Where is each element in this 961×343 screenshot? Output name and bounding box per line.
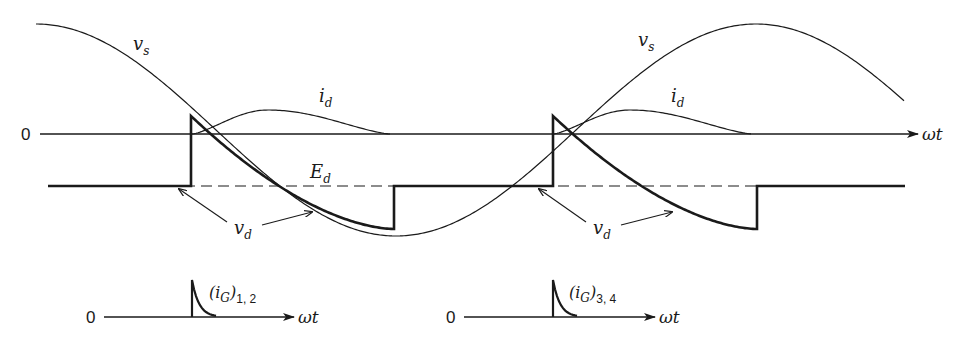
vs-label-right: vs [638,29,654,54]
waveform-diagram: 0 ωt vs vs id id Ed vd vd 0 ωt (iG)1, 2 … [0,0,961,343]
id-current-arc-1 [192,110,390,134]
gate-12-zero-label: 0 [86,308,95,327]
vd-label-left: vd [234,217,252,242]
gate-12-omega-t-label: ωt [298,307,319,327]
vs-label-left: vs [133,33,149,58]
main-axis-omega-t-label: ωt [922,124,943,144]
main-axis-zero-label: 0 [21,125,30,144]
id-label-left: id [319,85,333,110]
vd-output-voltage-waveform [48,116,905,229]
vd-right-pointer-arrow-1 [539,189,586,222]
vd-label-right: vd [593,217,611,242]
vs-source-voltage-curve [36,24,904,236]
vd-right-pointer-arrow-2 [621,212,672,225]
gate-34-omega-t-label: ωt [659,307,680,327]
id-label-right: id [671,85,685,110]
gate-12-label: (iG)1, 2 [209,283,257,306]
gate-34-zero-label: 0 [446,308,455,327]
gate-34-label: (iG)3, 4 [569,283,617,306]
vd-left-pointer-arrow-2 [262,212,312,225]
id-current-arc-2 [553,110,751,134]
ed-label: Ed [309,161,331,186]
vd-left-pointer-arrow-1 [179,189,227,222]
